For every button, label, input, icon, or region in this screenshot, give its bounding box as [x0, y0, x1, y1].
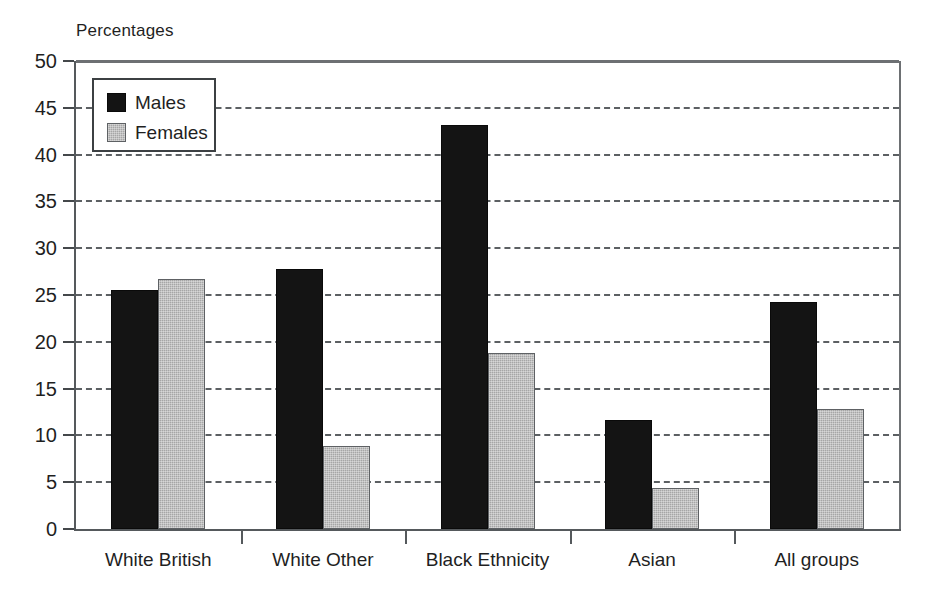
bar-males — [770, 302, 817, 529]
y-tick-mark — [63, 107, 74, 109]
x-axis-line — [74, 529, 901, 531]
x-axis-category-label: All groups — [774, 549, 859, 571]
x-axis-tick — [241, 531, 243, 544]
y-tick-label: 25 — [0, 285, 57, 305]
x-axis-tick — [734, 531, 736, 544]
y-axis-title: Percentages — [76, 21, 174, 41]
x-axis-category-label: Black Ethnicity — [426, 549, 550, 571]
legend-item-females: Females — [107, 117, 214, 147]
y-tick-mark — [63, 341, 74, 343]
gridline — [76, 60, 899, 62]
legend-swatch-females-icon — [107, 123, 126, 142]
y-tick-mark — [63, 60, 74, 62]
bar-females — [652, 488, 699, 529]
y-tick-mark — [63, 434, 74, 436]
y-tick-label: 10 — [0, 425, 57, 445]
gridline — [76, 200, 899, 202]
y-tick-mark — [63, 481, 74, 483]
y-tick-mark — [63, 528, 74, 530]
y-tick-mark — [63, 200, 74, 202]
y-tick-mark — [63, 294, 74, 296]
bar-males — [441, 125, 488, 529]
y-tick-label: 45 — [0, 98, 57, 118]
plot-border-left — [74, 61, 76, 531]
y-tick-label: 5 — [0, 472, 57, 492]
legend-swatch-males-icon — [107, 93, 126, 112]
y-tick-label: 30 — [0, 238, 57, 258]
y-tick-label: 0 — [0, 519, 57, 539]
bar-males — [276, 269, 323, 529]
bar-males — [111, 290, 158, 529]
plot-border-right — [899, 61, 901, 531]
y-tick-mark — [63, 154, 74, 156]
gridline — [76, 154, 899, 156]
x-axis-category-label: Asian — [628, 549, 676, 571]
x-axis-tick — [405, 531, 407, 544]
y-tick-label: 50 — [0, 51, 57, 71]
y-tick-label: 20 — [0, 332, 57, 352]
bar-females — [323, 446, 370, 529]
legend-label-females: Females — [135, 123, 208, 142]
y-tick-mark — [63, 388, 74, 390]
x-axis-category-label: White British — [105, 549, 212, 571]
bar-chart: Percentages Males Females 05101520253035… — [0, 0, 927, 600]
y-tick-label: 15 — [0, 379, 57, 399]
y-tick-mark — [63, 247, 74, 249]
legend: Males Females — [92, 78, 216, 152]
x-axis-category-label: White Other — [272, 549, 373, 571]
gridline — [76, 247, 899, 249]
x-axis-tick — [570, 531, 572, 544]
bar-males — [605, 420, 652, 530]
legend-label-males: Males — [135, 93, 186, 112]
y-tick-label: 40 — [0, 145, 57, 165]
bar-females — [158, 279, 205, 529]
bar-females — [488, 353, 535, 529]
legend-item-males: Males — [107, 87, 214, 117]
y-tick-label: 35 — [0, 191, 57, 211]
bar-females — [817, 409, 864, 529]
